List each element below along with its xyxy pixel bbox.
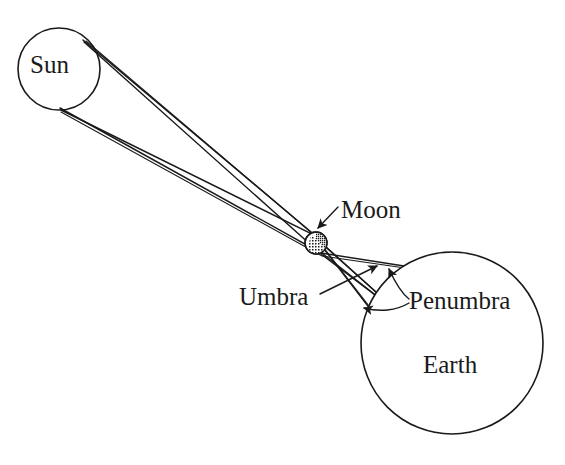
moon-leader-arrow (318, 207, 338, 228)
ray-sun-top-to-moon-top (83, 40, 381, 323)
moon-body (305, 232, 327, 256)
label-umbra: Umbra (239, 284, 308, 309)
label-sun: Sun (30, 52, 69, 77)
eclipse-diagram-figure: Sun Moon Umbra Penumbra Earth (0, 0, 565, 465)
label-moon: Moon (341, 197, 401, 222)
ray-sun-top-to-moon-bottom (84, 42, 396, 311)
earth-body (361, 252, 543, 434)
label-earth: Earth (423, 352, 477, 377)
ray-sun-bottom-to-moon-bottom (60, 108, 404, 266)
label-penumbra: Penumbra (409, 288, 510, 313)
diagram-canvas (0, 0, 565, 465)
